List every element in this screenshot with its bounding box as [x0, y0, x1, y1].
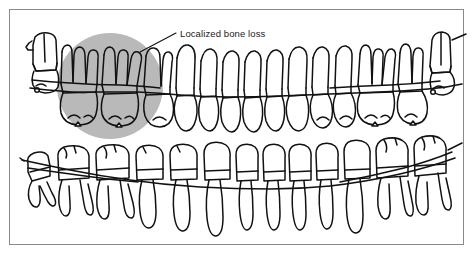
dental-diagram-figure: Localized bone loss [0, 0, 474, 260]
tooth-lower-right-second-molar [414, 136, 462, 215]
dental-diagram-svg: Localized bone loss [0, 0, 474, 260]
tooth-upper-right-canine [286, 47, 308, 131]
maxillary-bone-crest-right-secondary [330, 81, 440, 88]
annotation-label-text: Localized bone loss [180, 28, 265, 39]
tooth-lower-left-second-molar [58, 146, 93, 216]
tooth-lower-left-premolar-1 [170, 144, 197, 231]
tooth-upper-left-third-molar [26, 33, 59, 93]
tooth-lower-left-lateral-incisor [236, 144, 258, 230]
mandibular-bone-crest [22, 158, 455, 189]
tooth-lower-left-central-incisor [263, 144, 285, 230]
tooth-upper-left-canine [174, 45, 197, 131]
tooth-upper-right-lateral-incisor [265, 50, 285, 131]
annotation-localized-bone-loss: Localized bone loss [140, 28, 265, 52]
mandibular-bone-crest-left-secondary [28, 168, 138, 182]
tooth-lower-right-canine [344, 140, 370, 233]
tooth-upper-left-central-incisor [221, 51, 241, 132]
tooth-upper-right-third-molar [430, 32, 466, 95]
tooth-upper-right-premolar-1 [310, 47, 332, 128]
tooth-lower-left-canine [204, 142, 230, 236]
tooth-upper-left-lateral-incisor [199, 49, 219, 131]
tooth-upper-right-central-incisor [243, 51, 263, 132]
tooth-lower-left-premolar-2 [136, 145, 163, 228]
mandibular-arch [20, 136, 462, 236]
